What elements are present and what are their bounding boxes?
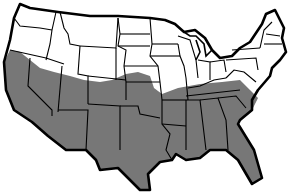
us-map	[0, 0, 304, 194]
